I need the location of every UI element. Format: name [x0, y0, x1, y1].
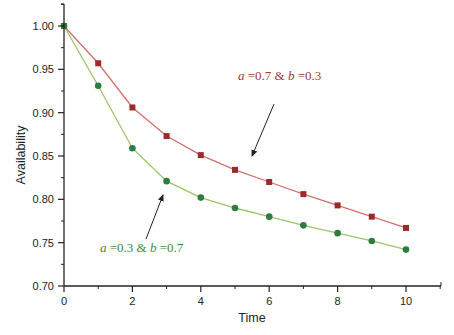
y-tick-label: 0.90: [33, 107, 54, 119]
plot-lines: [64, 26, 406, 250]
data-point-square: [129, 104, 135, 110]
annotation-label-a03: a =0.3 & b =0.7: [100, 240, 184, 255]
x-tick-label: 0: [61, 295, 67, 307]
data-point-square: [266, 179, 272, 185]
data-point-circle: [369, 238, 376, 245]
x-tick-label: 8: [335, 295, 341, 307]
x-tick-label: 4: [198, 295, 204, 307]
series-line: [64, 26, 406, 228]
y-tick-label: 0.75: [33, 237, 54, 249]
y-axis-title: Availability: [14, 125, 28, 185]
data-point-circle: [129, 145, 136, 152]
data-point-square: [369, 214, 375, 220]
data-point-circle: [95, 83, 102, 90]
x-tick-label: 10: [400, 295, 412, 307]
plot-markers: [61, 23, 410, 253]
arrow-icon: [252, 104, 274, 156]
availability-chart: 0.700.750.800.850.900.951.00 0246810 Tim…: [0, 0, 454, 335]
annotation-series-a07: a =0.7 & b =0.3: [238, 68, 321, 156]
data-point-circle: [232, 205, 239, 212]
data-point-square: [95, 60, 101, 66]
y-tick-label: 0.85: [33, 150, 54, 162]
series-line: [64, 26, 406, 250]
x-tick-label: 6: [266, 295, 272, 307]
y-tick-label: 0.70: [33, 280, 54, 292]
y-tick-label: 0.95: [33, 63, 54, 75]
data-point-circle: [300, 222, 307, 229]
axes: 0.700.750.800.850.900.951.00 0246810: [33, 4, 441, 307]
data-point-circle: [163, 178, 170, 185]
data-point-square: [403, 225, 409, 231]
data-point-circle: [403, 246, 410, 253]
x-tick-label: 2: [129, 295, 135, 307]
data-point-square: [300, 191, 306, 197]
annotation-label-a07: a =0.7 & b =0.3: [238, 68, 321, 83]
data-point-circle: [198, 194, 205, 201]
data-point-square: [164, 133, 170, 139]
arrow-icon: [146, 195, 163, 239]
data-point-circle: [334, 230, 341, 237]
data-point-square: [198, 152, 204, 158]
y-tick-label: 1.00: [33, 20, 54, 32]
y-tick-label: 0.80: [33, 193, 54, 205]
y-ticks: 0.700.750.800.850.900.951.00: [33, 4, 64, 292]
x-axis-title: Time: [238, 311, 265, 325]
annotation-series-a03: a =0.3 & b =0.7: [100, 195, 184, 255]
data-point-square: [232, 167, 238, 173]
data-point-square: [335, 202, 341, 208]
data-point-circle: [266, 213, 273, 220]
